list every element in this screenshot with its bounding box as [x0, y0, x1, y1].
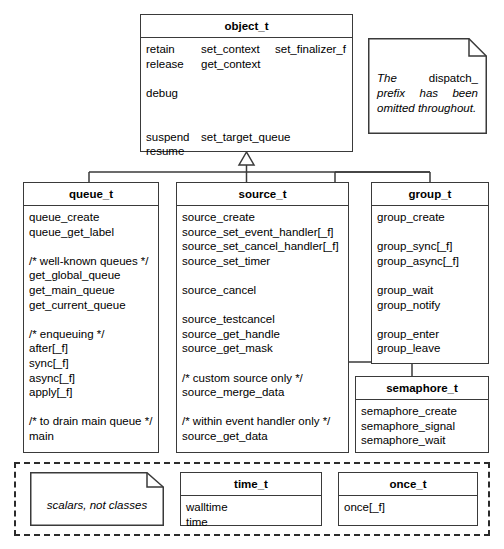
- member: source_cancel: [177, 283, 348, 298]
- member: source_set_cancel_handler[_f]: [177, 239, 348, 254]
- member: source_merge_data: [177, 385, 348, 400]
- class-title-group-t: group_t: [372, 183, 488, 206]
- class-box-object-t[interactable]: object_t retain set_context set_finalize…: [140, 14, 353, 152]
- member: source_create: [177, 210, 348, 225]
- class-box-time-t[interactable]: time_t walltime time: [180, 472, 322, 526]
- member: source_get_mask: [177, 341, 348, 356]
- class-members-queue-t: queue_create queue_get_label /* well-kno…: [24, 206, 158, 448]
- member: group_enter: [372, 327, 488, 342]
- member: sync[_f]: [24, 356, 158, 371]
- member: release: [146, 57, 184, 72]
- member-spacer: [24, 312, 158, 327]
- member: suspend: [146, 130, 189, 145]
- member: once[_f]: [339, 500, 477, 515]
- class-members-semaphore-t: semaphore_create semaphore_signal semaph…: [356, 400, 488, 452]
- member: source_set_timer: [177, 254, 348, 269]
- member: apply[_f]: [24, 385, 158, 400]
- member-spacer: [372, 225, 488, 240]
- member: group_wait: [372, 283, 488, 298]
- class-box-once-t[interactable]: once_t once[_f]: [338, 472, 478, 526]
- member: retain: [146, 42, 175, 57]
- member-spacer: [372, 312, 488, 327]
- note-text-dispatch-prefix: The dispatch_ prefix has been omitted th…: [368, 38, 487, 116]
- note-text-part: scalars, not classes: [47, 499, 147, 511]
- member: queue_get_label: [24, 225, 158, 240]
- member-row: debug: [141, 86, 352, 101]
- member: group_notify: [372, 298, 488, 313]
- member-row-spacer: [141, 115, 352, 130]
- member-spacer: [177, 298, 348, 313]
- member: debug: [146, 86, 178, 101]
- note-text-part: prefix has been omitted throughout.: [377, 87, 478, 114]
- member-spacer: [177, 268, 348, 283]
- class-members-source-t: source_create source_set_event_handler[_…: [177, 206, 348, 448]
- class-box-group-t[interactable]: group_t group_create group_sync[_f] grou…: [371, 182, 489, 364]
- member-row: suspend set_target_queue: [141, 130, 352, 145]
- note-text-roman: dispatch_: [429, 72, 478, 84]
- class-title-once-t: once_t: [339, 473, 477, 496]
- member-comment: /* enqueuing */: [24, 327, 158, 342]
- member: semaphore_signal: [356, 419, 488, 434]
- class-title-object-t: object_t: [141, 15, 352, 38]
- member-spacer: [177, 400, 348, 415]
- member: main: [24, 429, 158, 444]
- class-title-source-t: source_t: [177, 183, 348, 206]
- class-box-source-t[interactable]: source_t source_create source_set_event_…: [176, 182, 349, 453]
- note-scalars: scalars, not classes: [30, 472, 164, 526]
- member: group_create: [372, 210, 488, 225]
- member-spacer: [177, 356, 348, 371]
- class-title-semaphore-t: semaphore_t: [356, 377, 488, 400]
- note-text-part: The: [377, 72, 429, 84]
- member: async[_f]: [24, 371, 158, 386]
- class-members-once-t: once[_f]: [339, 496, 477, 519]
- member: after[_f]: [24, 341, 158, 356]
- member: time: [181, 515, 321, 530]
- class-title-queue-t: queue_t: [24, 183, 158, 206]
- class-members-object-t: retain set_context set_finalizer_f relea…: [141, 38, 352, 163]
- note-text-scalars: scalars, not classes: [30, 472, 164, 513]
- member: walltime: [181, 500, 321, 515]
- member-spacer: [24, 239, 158, 254]
- member-row: release get_context: [141, 57, 352, 72]
- member: semaphore_create: [356, 404, 488, 419]
- note-dispatch-prefix: The dispatch_ prefix has been omitted th…: [368, 38, 487, 134]
- class-box-semaphore-t[interactable]: semaphore_t semaphore_create semaphore_s…: [355, 376, 489, 453]
- member: group_leave: [372, 341, 488, 356]
- member-comment: /* well-known queues */: [24, 254, 158, 269]
- member-comment: /* within event handler only */: [177, 414, 348, 429]
- class-box-queue-t[interactable]: queue_t queue_create queue_get_label /* …: [23, 182, 159, 453]
- member: source_testcancel: [177, 312, 348, 327]
- member-row: retain set_context set_finalizer_f: [141, 42, 352, 57]
- member: set_context: [201, 42, 260, 57]
- member: source_set_event_handler[_f]: [177, 225, 348, 240]
- member: resume: [146, 144, 184, 159]
- member-spacer: [372, 268, 488, 283]
- member: source_get_handle: [177, 327, 348, 342]
- member: group_async[_f]: [372, 254, 488, 269]
- member: queue_create: [24, 210, 158, 225]
- member-comment: /* to drain main queue */: [24, 414, 158, 429]
- member: set_target_queue: [201, 130, 291, 145]
- class-diagram-canvas: object_t retain set_context set_finalize…: [0, 0, 504, 549]
- member: get_global_queue: [24, 268, 158, 283]
- class-members-time-t: walltime time: [181, 496, 321, 533]
- member: set_finalizer_f: [275, 42, 346, 57]
- member: group_sync[_f]: [372, 239, 488, 254]
- member: source_get_data: [177, 429, 348, 444]
- class-title-time-t: time_t: [181, 473, 321, 496]
- member-spacer: [24, 400, 158, 415]
- class-members-group-t: group_create group_sync[_f] group_async[…: [372, 206, 488, 360]
- member: semaphore_wait: [356, 433, 488, 448]
- member: get_context: [201, 57, 260, 72]
- member-row-spacer: [141, 100, 352, 115]
- member: get_main_queue: [24, 283, 158, 298]
- member: get_current_queue: [24, 298, 158, 313]
- member-row-spacer: [141, 71, 352, 86]
- member-comment: /* custom source only */: [177, 371, 348, 386]
- member-row: resume: [141, 144, 352, 159]
